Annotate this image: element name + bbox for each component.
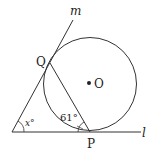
- label-angle-61: 61°: [60, 112, 78, 123]
- label-o: O: [94, 77, 104, 91]
- label-q: Q: [36, 55, 46, 69]
- center-dot: [87, 81, 91, 85]
- label-p: P: [87, 137, 95, 151]
- label-angle-x: x°: [25, 118, 35, 128]
- label-m: m: [70, 4, 81, 18]
- geometry-diagram: m l Q P O x° 61°: [0, 0, 155, 154]
- angle-x-arc: [18, 121, 24, 132]
- label-l: l: [142, 126, 146, 140]
